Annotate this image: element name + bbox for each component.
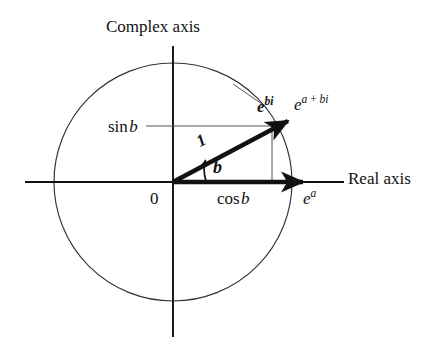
complex-axis-label: Complex axis (106, 18, 200, 35)
sin-argument: b (129, 117, 138, 136)
origin-label: 0 (150, 190, 159, 207)
angle-b-label: b (213, 158, 222, 176)
e-a-plus-bi-exponent-operator: + (307, 93, 319, 105)
cos-b-label: cos b (217, 190, 250, 207)
e-a-exponent: a (311, 187, 317, 199)
real-axis-label: Real axis (348, 170, 411, 187)
cos-function-name: cos (217, 189, 240, 208)
e-bi-label: ebi (257, 98, 274, 115)
e-a-label: ea (303, 190, 316, 207)
e-a-plus-bi-label: ea + bi (294, 96, 329, 113)
cos-argument: b (241, 189, 250, 208)
sin-function-name: sin (108, 117, 128, 136)
e-a-base: e (303, 189, 311, 208)
e-bi-base: e (257, 97, 265, 116)
e-bi-exponent: bi (265, 95, 274, 107)
e-a-plus-bi-base: e (294, 95, 302, 114)
e-a-plus-bi-exponent-bi: bi (320, 93, 329, 105)
sin-b-label: sin b (108, 118, 138, 135)
euler-formula-diagram: Complex axis Real axis 0 sin b cos b 1 b… (0, 0, 439, 355)
vector-e-a-plus-bi (173, 121, 288, 182)
